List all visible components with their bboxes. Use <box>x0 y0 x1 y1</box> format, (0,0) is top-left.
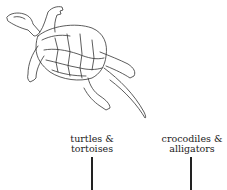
turtle-illustration <box>0 0 160 120</box>
taxon-label-crocodiles: crocodiles & alligators <box>160 134 224 154</box>
taxon-label-line2: alligators <box>160 144 224 154</box>
branch-line-turtles <box>91 157 93 190</box>
taxon-label-turtles: turtles & tortoises <box>68 134 116 154</box>
taxon-label-line2: tortoises <box>68 144 116 154</box>
branch-line-crocodiles <box>190 157 192 190</box>
